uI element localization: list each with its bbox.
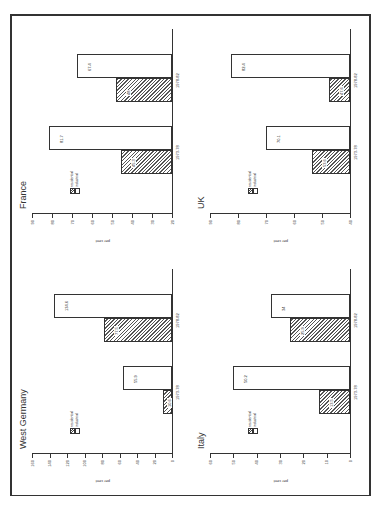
y-tick: [67, 454, 68, 458]
hatched-swatch-icon: [70, 428, 75, 434]
y-tick-label: 0: [348, 460, 353, 474]
y-tick: [72, 214, 73, 218]
y-tick-label: 20: [152, 460, 157, 474]
x-category-label: 1973-78: [353, 385, 358, 400]
bar-value-label: 13.5: [329, 398, 334, 408]
x-axis: [350, 29, 351, 214]
y-tick: [172, 214, 173, 218]
bar-residential-1973-78: [319, 390, 351, 414]
x-category-label: 1978-82: [175, 73, 180, 88]
y-axis-label: per cent: [96, 239, 110, 244]
y-tick: [350, 454, 351, 458]
legend: residentialindustrial: [70, 411, 81, 434]
y-tick: [322, 214, 323, 218]
y-tick-label: 60: [117, 460, 122, 474]
legend-label: residential: [70, 411, 74, 427]
x-axis: [172, 29, 173, 214]
legend: residentialindustrial: [248, 171, 259, 194]
y-tick: [120, 454, 121, 458]
x-axis: [172, 269, 173, 454]
y-tick: [327, 454, 328, 458]
y-axis-label: per cent: [274, 479, 288, 484]
legend: residentialindustrial: [70, 171, 81, 194]
bar-residential-1973-78: [312, 150, 350, 174]
bar-value-label: 34: [281, 306, 286, 312]
y-axis-label: per cent: [274, 239, 288, 244]
y-tick: [32, 214, 33, 218]
x-axis: [350, 269, 351, 454]
empty-swatch-icon: [75, 188, 80, 194]
y-tick-label: 80: [236, 220, 241, 234]
y-tick-label: 90: [30, 220, 35, 234]
y-tick-label: 160: [30, 460, 35, 474]
y-tick-label: 0: [170, 460, 175, 474]
legend-label: residential: [248, 171, 252, 187]
y-tick: [238, 214, 239, 218]
y-tick: [294, 214, 295, 218]
y-tick-label: 50: [320, 220, 325, 234]
bar-industrial-1978-82: [54, 294, 172, 318]
y-tick: [85, 454, 86, 458]
bar-value-label: 48: [126, 90, 131, 96]
y-tick-label: 60: [208, 460, 213, 474]
x-category-label: 1973-78: [175, 385, 180, 400]
chart-title: France: [18, 181, 28, 209]
chart-panel-wg: West Germany020406080100120140160per cen…: [12, 254, 192, 494]
y-tick: [210, 214, 211, 218]
bar-value-label: 45.3: [131, 158, 136, 168]
y-tick: [137, 454, 138, 458]
y-tick-label: 90: [208, 220, 213, 234]
y-tick: [112, 214, 113, 218]
y-tick-label: 80: [100, 460, 105, 474]
y-tick: [132, 214, 133, 218]
y-tick: [280, 454, 281, 458]
bar-value-label: 70.1: [276, 134, 281, 144]
y-tick-label: 10: [324, 460, 329, 474]
y-tick-label: 40: [130, 220, 135, 234]
y-tick-label: 50: [110, 220, 115, 234]
bar-value-label: 25.9: [300, 326, 305, 336]
bar-value-label: 55.9: [133, 374, 138, 384]
y-tick: [257, 454, 258, 458]
hatched-swatch-icon: [248, 428, 253, 434]
y-tick-label: 100: [82, 460, 87, 474]
legend-label: industrial: [254, 173, 258, 187]
legend: residentialindustrial: [248, 411, 259, 434]
bar-industrial-1973-78: [233, 366, 350, 390]
y-tick: [172, 454, 173, 458]
y-tick-label: 60: [292, 220, 297, 234]
bar-value-label: 82.4: [241, 62, 246, 72]
y-tick: [303, 454, 304, 458]
chart-panel-uk: UK405060708090per cent53.670.11973-7847.…: [190, 14, 370, 254]
y-tick-label: 30: [150, 220, 155, 234]
y-tick-label: 60: [90, 220, 95, 234]
bar-residential-1978-82: [116, 78, 172, 102]
chart-title: West Germany: [18, 389, 28, 449]
empty-swatch-icon: [75, 428, 80, 434]
y-tick: [155, 454, 156, 458]
bar-residential-1973-78: [121, 150, 172, 174]
chart-panel-fr: France2030405060708090per cent45.381.719…: [12, 14, 192, 254]
y-tick-label: 20: [170, 220, 175, 234]
legend-label: industrial: [76, 173, 80, 187]
bar-value-label: 53.6: [322, 158, 327, 168]
empty-swatch-icon: [253, 188, 258, 194]
y-tick-label: 140: [47, 460, 52, 474]
legend-label: residential: [70, 171, 74, 187]
y-tick-label: 120: [65, 460, 70, 474]
y-tick-label: 40: [348, 220, 353, 234]
y-tick: [102, 454, 103, 458]
y-tick: [32, 454, 33, 458]
y-tick-label: 80: [50, 220, 55, 234]
bar-value-label: 81.7: [59, 134, 64, 144]
legend-item-industrial: industrial: [253, 411, 258, 434]
y-tick: [52, 214, 53, 218]
bar-value-label: 10.6: [167, 398, 172, 408]
x-category-label: 1973-78: [175, 145, 180, 160]
y-tick-label: 50: [231, 460, 236, 474]
y-tick: [152, 214, 153, 218]
bar-value-label: 134.6: [64, 300, 69, 312]
legend-label: industrial: [254, 413, 258, 427]
y-tick-label: 30: [278, 460, 283, 474]
chart-title: UK: [196, 196, 206, 209]
